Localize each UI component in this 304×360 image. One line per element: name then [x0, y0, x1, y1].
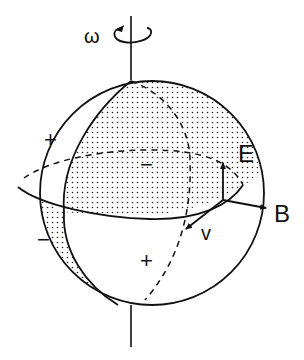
minus-center-label: −: [140, 152, 153, 177]
b-label: B: [274, 200, 290, 227]
e-label: E: [238, 140, 254, 167]
plus-upper-left-label: +: [44, 127, 57, 152]
omega-label: ω: [84, 25, 100, 47]
minus-lower-left-label: −: [37, 227, 50, 252]
rotation-arrow-icon: [114, 25, 151, 43]
v-label: v: [201, 222, 211, 244]
b-field-vector: [223, 200, 266, 208]
rotating-sphere-diagram: ω E B v + − − +: [0, 0, 304, 360]
plus-lower-center-label: +: [140, 248, 153, 273]
